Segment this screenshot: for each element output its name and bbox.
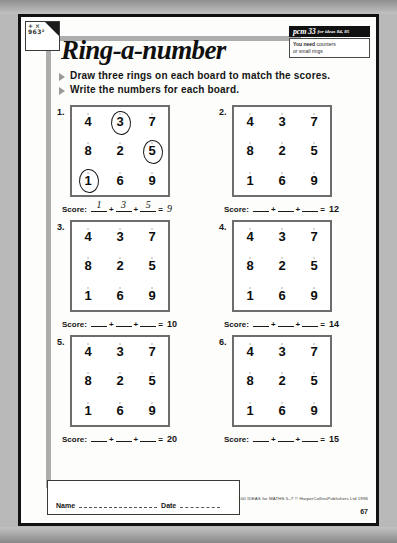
name-date-box[interactable]: Name Date [47,480,240,515]
board-cell[interactable]: 7 [298,107,330,136]
board-cell[interactable]: 6 [266,166,298,195]
board-cell[interactable]: 4 [72,337,104,366]
you-need-line-2: or small rings [293,48,366,55]
board-cell[interactable]: 8 [234,136,266,165]
number-board[interactable]: 437825169 [232,105,332,197]
score-blank[interactable] [253,432,269,442]
board-cell[interactable]: 6 [104,281,136,310]
board-cell[interactable]: 3 [266,222,298,251]
board-cell[interactable]: 1 [234,166,266,195]
board-cell[interactable]: 6 [104,166,136,195]
board-digit: 6 [116,289,123,302]
board-cell[interactable]: 4 [234,222,266,251]
board-cell[interactable]: 8 [72,366,104,395]
board-cell[interactable]: 8 [234,251,266,280]
board-row: 1.437825169Score:1+3+5=92.437825169Score… [57,105,357,214]
board-cell[interactable]: 4 [234,337,266,366]
board-cell[interactable]: 3 [104,337,136,366]
score-blank[interactable] [91,317,107,327]
board-cell[interactable]: 2 [266,366,298,395]
board-cell[interactable]: 9 [298,281,330,310]
score-line: Score:++=20 [62,432,195,444]
board-cell[interactable]: 7 [136,337,168,366]
board-cell[interactable]: 2 [266,251,298,280]
board-cell[interactable]: 3 [104,107,136,136]
board-cell[interactable]: 8 [72,251,104,280]
board-cell[interactable]: 6 [266,281,298,310]
score-blank[interactable] [278,432,294,442]
equals-sign: = [320,205,325,214]
board-cell[interactable]: 3 [104,222,136,251]
score-blank[interactable] [116,317,132,327]
board-cell[interactable]: 5 [136,136,168,165]
board-cell[interactable]: 5 [298,251,330,280]
score-blank[interactable] [302,202,318,212]
board-number: 6. [219,335,232,347]
board-cell[interactable]: 6 [104,396,136,425]
number-board[interactable]: 437825169 [232,335,332,427]
board-cell[interactable]: 1 [234,281,266,310]
name-input-line[interactable] [79,500,157,508]
board-cell[interactable]: 9 [136,396,168,425]
handwritten-answer: 5 [140,200,156,210]
board-cell[interactable]: 5 [136,251,168,280]
board-cell[interactable]: 4 [72,107,104,136]
you-need-box: You need counters or small rings [289,38,370,58]
score-blank[interactable] [116,432,132,442]
board-cell[interactable]: 3 [266,107,298,136]
score-blank[interactable] [302,317,318,327]
worksheet-frame: + × 963² pcm 33 for ideas 84, 85 You nee… [18,14,379,526]
board-cell[interactable]: 7 [136,107,168,136]
board-cell[interactable]: 5 [298,366,330,395]
board-grid: 437825169 [72,222,168,310]
board-cell[interactable]: 2 [266,136,298,165]
board-digit: 8 [84,144,91,157]
board-cell[interactable]: 8 [72,136,104,165]
board-digit: 7 [148,230,155,243]
score-blank[interactable] [140,432,156,442]
number-board[interactable]: 437825169 [232,220,332,312]
board-4: 4.437825169Score:++=14 [219,220,357,329]
score-blank[interactable]: 1 [91,202,107,212]
board-cell[interactable]: 7 [298,222,330,251]
plus-sign: + [296,320,301,329]
page-number: 67 [360,508,368,515]
score-blank[interactable]: 3 [116,202,132,212]
board-cell[interactable]: 4 [234,107,266,136]
score-blank[interactable] [278,317,294,327]
score-blank[interactable]: 5 [140,202,156,212]
score-blank[interactable] [253,202,269,212]
board-number: 5. [57,335,70,347]
board-cell[interactable]: 8 [234,366,266,395]
board-grid: 437825169 [234,107,330,195]
score-blank[interactable] [278,202,294,212]
board-cell[interactable]: 9 [136,166,168,195]
board-cell[interactable]: 3 [266,337,298,366]
board-cell[interactable]: 2 [104,136,136,165]
board-cell[interactable]: 9 [298,166,330,195]
board-cell[interactable]: 5 [136,366,168,395]
board-digit: 2 [278,374,285,387]
date-input-line[interactable] [180,500,220,508]
board-cell[interactable]: 1 [72,281,104,310]
board-cell[interactable]: 9 [298,396,330,425]
board-cell[interactable]: 1 [72,166,104,195]
board-cell[interactable]: 2 [104,366,136,395]
board-cell[interactable]: 7 [298,337,330,366]
board-cell[interactable]: 4 [72,222,104,251]
board-cell[interactable]: 9 [136,281,168,310]
score-blank[interactable] [302,432,318,442]
score-blank[interactable] [140,317,156,327]
board-cell[interactable]: 2 [104,251,136,280]
board-digit: 4 [246,230,253,243]
board-cell[interactable]: 7 [136,222,168,251]
board-cell[interactable]: 6 [266,396,298,425]
score-blank[interactable] [91,432,107,442]
number-board[interactable]: 437825169 [70,335,170,427]
number-board[interactable]: 437825169 [70,105,170,197]
board-cell[interactable]: 1 [234,396,266,425]
board-cell[interactable]: 1 [72,396,104,425]
number-board[interactable]: 437825169 [70,220,170,312]
board-cell[interactable]: 5 [298,136,330,165]
score-blank[interactable] [253,317,269,327]
